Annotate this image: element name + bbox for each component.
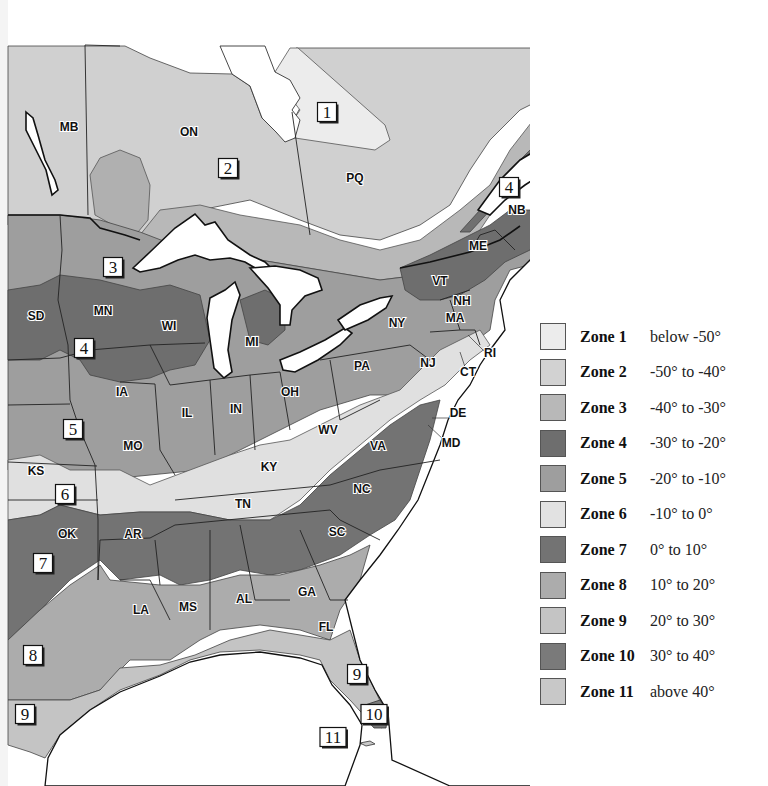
zone-marker-4: 4 [75,339,96,360]
state-label-mi: MI [245,335,258,349]
legend-item-zone-4: Zone 4-30° to -20° [540,426,768,462]
legend-item-zone-8: Zone 810° to 20° [540,568,768,604]
legend-swatch [540,501,566,528]
svg-text:5: 5 [69,420,78,439]
zone-marker-3: 3 [104,258,125,279]
svg-text:2: 2 [224,159,233,178]
svg-text:9: 9 [21,705,30,724]
legend-item-zone-6: Zone 6-10° to 0° [540,497,768,533]
province-label-nb: NB [508,203,526,217]
state-label-ky: KY [261,460,278,474]
legend-item-zone-2: Zone 2-50° to -40° [540,355,768,391]
state-label-tn: TN [235,497,251,511]
zone-legend: Zone 1below -50°Zone 2-50° to -40°Zone 3… [540,319,768,710]
legend-item-zone-10: Zone 1030° to 40° [540,639,768,675]
legend-zone-name: Zone 2 [580,363,650,381]
zone-marker-5: 5 [64,420,85,441]
state-label-me: ME [469,239,487,253]
zone-marker-8: 8 [24,646,45,667]
state-label-ar: AR [124,527,142,541]
legend-zone-name: Zone 11 [580,683,650,701]
legend-swatch [540,465,566,492]
state-label-ga: GA [298,585,316,599]
zone-marker-2: 2 [219,159,240,180]
state-label-nc: NC [353,482,371,496]
zone-marker-9: 9 [16,705,37,726]
legend-swatch [540,394,566,421]
svg-text:4: 4 [80,339,89,358]
legend-temperature-range: above 40° [650,683,715,701]
legend-item-zone-1: Zone 1below -50° [540,319,768,355]
zone-marker-6: 6 [56,485,77,506]
svg-text:7: 7 [39,554,48,573]
state-label-al: AL [236,592,252,606]
state-label-nh: NH [453,294,470,308]
svg-text:11: 11 [325,728,341,747]
svg-text:6: 6 [61,485,70,504]
state-label-la: LA [133,603,149,617]
legend-zone-name: Zone 4 [580,434,650,452]
legend-item-zone-7: Zone 70° to 10° [540,532,768,568]
legend-temperature-range: -20° to -10° [650,470,726,488]
province-label-pq: PQ [346,171,363,185]
legend-swatch [540,643,566,670]
legend-zone-name: Zone 8 [580,576,650,594]
legend-swatch [540,359,566,386]
zone-marker-7: 7 [34,554,55,575]
legend-temperature-range: -10° to 0° [650,505,713,523]
state-label-ny: NY [389,316,406,330]
state-label-ri: RI [484,346,496,360]
legend-temperature-range: -30° to -20° [650,434,726,452]
legend-item-zone-11: Zone 11above 40° [540,674,768,710]
svg-text:9: 9 [353,665,362,684]
state-label-sd: SD [28,309,45,323]
state-label-mo: MO [123,439,142,453]
province-label-mb: MB [60,120,79,134]
state-label-sc: SC [329,525,346,539]
zone-11-keys [360,741,375,746]
state-label-in: IN [230,402,242,416]
legend-temperature-range: 0° to 10° [650,541,707,559]
state-label-vt: VT [432,274,448,288]
svg-text:10: 10 [366,705,383,724]
legend-item-zone-5: Zone 5-20° to -10° [540,461,768,497]
legend-zone-name: Zone 6 [580,505,650,523]
state-label-il: IL [182,406,193,420]
legend-temperature-range: 10° to 20° [650,576,715,594]
svg-text:1: 1 [323,103,332,122]
state-label-pa: PA [354,359,370,373]
state-label-wv: WV [318,423,337,437]
legend-zone-name: Zone 7 [580,541,650,559]
legend-swatch [540,323,566,350]
hardiness-zone-map: MBONPQNFNBNSSDMNWIMIIAILINOHPANYVTMENHMA… [0,0,530,786]
state-label-ma: MA [446,311,465,325]
zone-marker-11: 11 [320,728,348,749]
state-label-ct: CT [460,365,477,379]
zone-marker-1: 1 [318,103,339,124]
legend-zone-name: Zone 1 [580,328,650,346]
legend-temperature-range: 30° to 40° [650,647,715,665]
legend-temperature-range: -40° to -30° [650,399,726,417]
state-label-fl: FL [319,620,334,634]
svg-text:4: 4 [505,178,514,197]
legend-swatch [540,678,566,705]
state-label-mn: MN [94,304,113,318]
legend-swatch [540,536,566,563]
legend-temperature-range: -50° to -40° [650,363,726,381]
zone-marker-4: 4 [500,178,521,199]
svg-text:8: 8 [29,646,38,665]
state-label-de: DE [450,406,467,420]
state-label-wi: WI [162,319,177,333]
zone-marker-9: 9 [348,665,369,686]
legend-temperature-range: below -50° [650,328,721,346]
legend-zone-name: Zone 9 [580,612,650,630]
legend-swatch [540,572,566,599]
province-label-on: ON [180,125,198,139]
state-label-ks: KS [28,464,45,478]
state-label-ia: IA [116,385,128,399]
state-label-nj: NJ [420,356,435,370]
legend-zone-name: Zone 10 [580,647,650,665]
legend-swatch [540,607,566,634]
zone-marker-10: 10 [361,705,389,726]
legend-item-zone-3: Zone 3-40° to -30° [540,390,768,426]
